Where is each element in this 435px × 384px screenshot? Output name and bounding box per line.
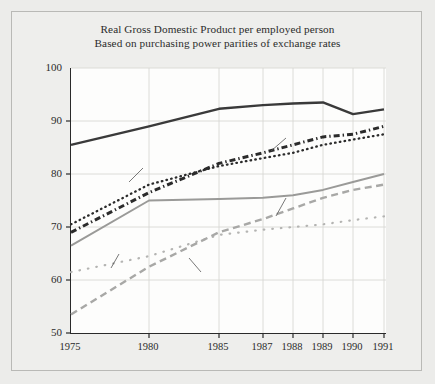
y-tick-90: 90 <box>28 114 62 126</box>
series-line-germany <box>71 174 384 246</box>
chart-subtitle: Based on purchasing power parities of ex… <box>0 36 435 50</box>
series-line-france <box>71 126 384 232</box>
series-lines <box>71 102 384 314</box>
figure-background: Real Gross Domestic Product per employed… <box>0 0 435 384</box>
x-tick-1985: 1985 <box>198 341 238 352</box>
y-tick-100: 100 <box>28 61 62 73</box>
x-tick-1980: 1980 <box>128 341 168 352</box>
y-tick-50: 50 <box>28 326 62 338</box>
series-line-britain <box>71 216 384 272</box>
chart-title: Real Gross Domestic Product per employed… <box>0 22 435 36</box>
y-tick-60: 60 <box>28 273 62 285</box>
chart-svg <box>71 68 388 335</box>
chart-title-block: Real Gross Domestic Product per employed… <box>0 22 435 50</box>
x-tick-1991: 1991 <box>363 341 403 352</box>
x-tick-1975: 1975 <box>50 341 90 352</box>
y-tick-70: 70 <box>28 220 62 232</box>
series-line-italy <box>71 134 384 224</box>
series-line-canada <box>71 102 384 144</box>
series-line-japan <box>71 185 384 315</box>
plot-area <box>70 68 386 334</box>
y-tick-80: 80 <box>28 167 62 179</box>
